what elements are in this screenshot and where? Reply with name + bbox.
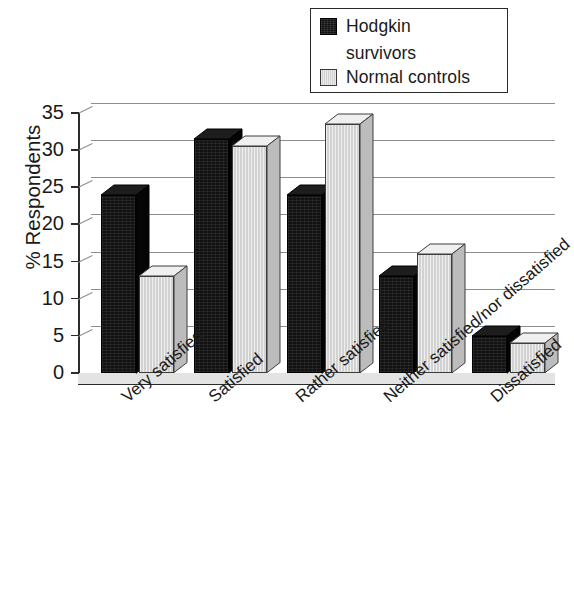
y-tick-mark: [71, 149, 79, 151]
bar-front-face: [325, 124, 360, 373]
bar-normal-controls-1: [232, 146, 267, 373]
gridline-depth-connector: [78, 217, 93, 225]
gridline-depth-connector: [78, 180, 93, 188]
bar-front-face: [101, 195, 136, 373]
gridline: [91, 103, 555, 104]
y-tick-mark: [71, 223, 79, 225]
y-tick-label: 5: [0, 325, 64, 345]
gridline-depth-connector: [78, 143, 93, 151]
bar-hodgkin-survivors-4: [472, 336, 507, 373]
gridline: [91, 140, 555, 141]
bar-front-face: [287, 195, 322, 373]
gridline-depth-connector: [78, 329, 93, 337]
gridline: [91, 177, 555, 178]
bar-hodgkin-survivors-0: [101, 195, 136, 373]
y-tick-mark: [71, 372, 79, 374]
y-tick-mark: [71, 112, 79, 114]
y-tick-label: 0: [0, 362, 64, 382]
y-tick-mark: [71, 335, 79, 337]
gridline-depth-connector: [78, 292, 93, 300]
gridline-depth-connector: [78, 254, 93, 262]
bar-front-face: [232, 146, 267, 373]
gridline-depth-connector: [78, 106, 93, 114]
y-tick-mark: [71, 298, 79, 300]
y-axis-title: % Respondents: [21, 102, 45, 292]
bar-hodgkin-survivors-2: [287, 195, 322, 373]
bar-front-face: [472, 336, 507, 373]
y-tick-mark: [71, 186, 79, 188]
y-tick-mark: [71, 261, 79, 263]
bar-normal-controls-2: [325, 124, 360, 373]
